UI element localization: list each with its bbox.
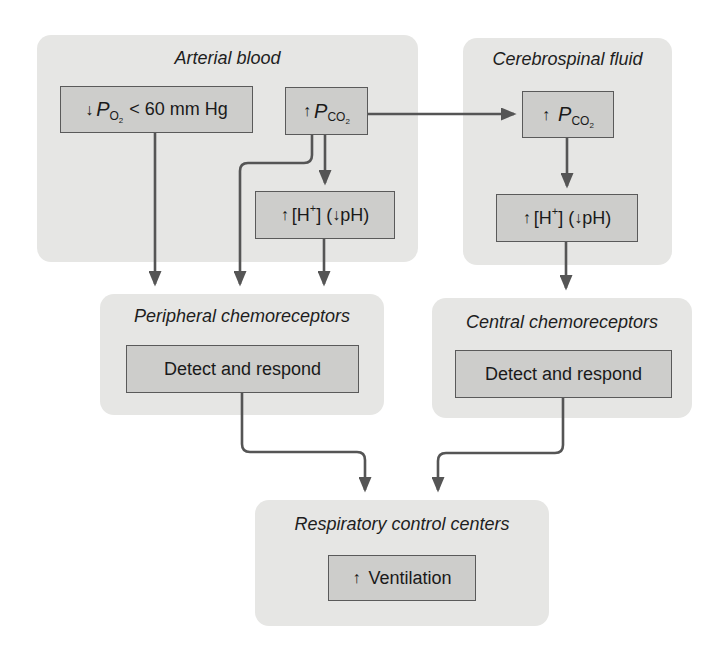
h-ion-suffix: ] ( <box>316 205 332 226</box>
arterial-pco2-box: ↑ PCO2 <box>285 87 368 135</box>
up-arrow-icon: ↑ <box>523 209 531 227</box>
up-arrow-icon: ↑ <box>352 569 360 587</box>
po2-threshold: < 60 mm Hg <box>129 99 228 120</box>
po2-box: ↓ PO2 < 60 mm Hg <box>60 86 253 133</box>
central-detect-box: Detect and respond <box>455 350 672 398</box>
down-arrow-icon: ↓ <box>332 206 340 224</box>
h-ion-superscript: + <box>310 202 316 214</box>
h-ion-prefix: [H <box>292 205 310 226</box>
up-arrow-icon: ↑ <box>542 106 550 124</box>
csf-pco2-box: ↑ PCO2 <box>522 91 614 138</box>
ph-label: pH) <box>340 205 369 226</box>
ph-label: pH) <box>582 208 611 229</box>
o2-subscript: O2 <box>110 109 124 123</box>
ventilation-label: Ventilation <box>368 568 451 589</box>
co2-subscript: CO2 <box>571 114 593 128</box>
h-ion-suffix: ] ( <box>558 208 574 229</box>
csf-h-ion-box: ↑ [H+] (↓pH) <box>496 194 638 242</box>
central-chemoreceptors-title: Central chemoreceptors <box>432 312 692 333</box>
arterial-blood-title: Arterial blood <box>37 48 418 69</box>
p-symbol: P <box>96 98 109 121</box>
h-ion-superscript: + <box>552 205 558 217</box>
p-symbol: P <box>558 103 571 126</box>
up-arrow-icon: ↑ <box>303 102 311 120</box>
down-arrow-icon: ↓ <box>85 101 93 119</box>
peripheral-chemoreceptors-title: Peripheral chemoreceptors <box>100 306 384 327</box>
down-arrow-icon: ↓ <box>574 209 582 227</box>
up-arrow-icon: ↑ <box>281 206 289 224</box>
peripheral-detect-box: Detect and respond <box>126 345 359 393</box>
arterial-h-ion-box: ↑ [H+] (↓pH) <box>255 191 395 239</box>
ventilation-box: ↑ Ventilation <box>328 555 476 601</box>
respiratory-control-centers-title: Respiratory control centers <box>255 514 549 535</box>
h-ion-prefix: [H <box>534 208 552 229</box>
co2-subscript: CO2 <box>327 110 349 124</box>
p-symbol: P <box>314 100 327 123</box>
cerebrospinal-fluid-title: Cerebrospinal fluid <box>463 49 672 70</box>
